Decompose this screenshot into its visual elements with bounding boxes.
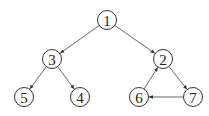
node-2: 2 [154,50,173,69]
node-6: 6 [130,88,149,107]
edge-2-to-7 [169,66,187,89]
directed-graph: 1325467 [0,0,209,116]
node-1: 1 [98,11,117,30]
node-5: 5 [15,88,34,107]
node-7: 7 [184,88,203,107]
nodes: 1325467 [15,11,203,107]
node-3: 3 [43,50,62,69]
edge-1-to-2 [115,25,155,53]
edge-1-to-3 [60,25,99,53]
edge-3-to-5 [30,67,46,89]
node-label: 7 [189,90,197,106]
node-label: 5 [20,90,28,106]
node-label: 6 [135,90,143,106]
edge-6-to-2 [144,67,158,89]
edge-3-to-4 [58,67,74,89]
node-label: 4 [76,90,84,106]
node-label: 1 [103,13,111,29]
node-label: 3 [48,52,56,68]
node-4: 4 [71,88,90,107]
node-label: 2 [159,52,167,68]
